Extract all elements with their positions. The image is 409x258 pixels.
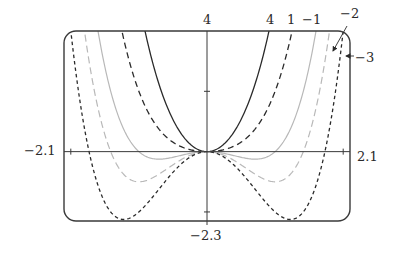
series-label-c-3: −3 <box>355 50 374 65</box>
series-label-c-2: −2 <box>340 6 359 21</box>
arrow-c-2 <box>333 26 347 51</box>
graph-figure: 4 −2.3 −2.1 2.1 4 1 −1 −2 −3 <box>0 0 409 258</box>
y-min-label: −2.3 <box>190 228 222 243</box>
x-max-label: 2.1 <box>357 149 378 164</box>
series-label-c4: 4 <box>266 12 274 27</box>
y-max-label: 4 <box>203 12 211 27</box>
x-min-label: −2.1 <box>24 143 56 158</box>
series-label-c1: 1 <box>287 12 295 27</box>
series-label-c-1: −1 <box>302 12 321 27</box>
